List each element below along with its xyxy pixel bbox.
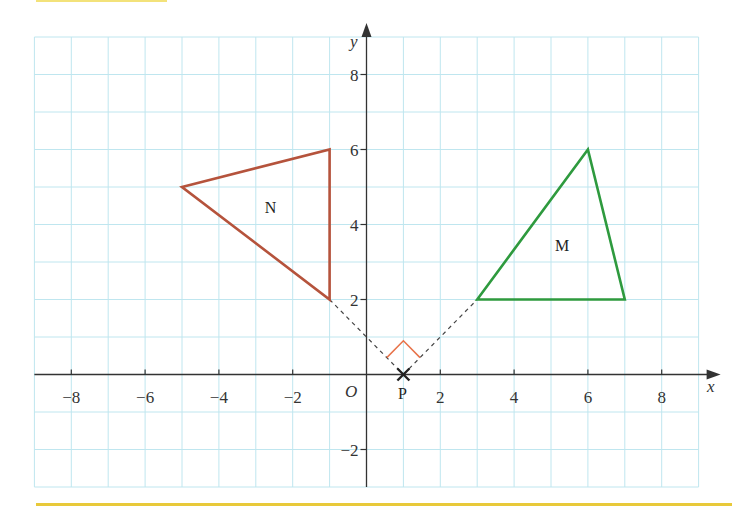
triangle-m-label: M [555, 237, 569, 254]
y-axis-arrow-icon [362, 23, 372, 37]
x-tick-label: −2 [284, 388, 302, 407]
x-tick-label: −6 [136, 388, 154, 407]
coordinate-grid-diagram: −8−6−4−224688642−2 x y O P N M [0, 0, 732, 507]
x-tick-label: 6 [584, 388, 593, 407]
x-tick-label: −4 [210, 388, 229, 407]
axes [34, 23, 720, 487]
y-tick-label: 8 [350, 66, 359, 85]
point-p-label: P [398, 385, 407, 402]
origin-label: O [345, 382, 357, 401]
y-axis-label: y [348, 32, 358, 51]
bottom-accent-bar [36, 503, 732, 506]
x-tick-label: 8 [657, 388, 666, 407]
triangle-n-label: N [265, 199, 277, 216]
y-tick-label: 6 [350, 141, 359, 160]
y-tick-label: 4 [350, 216, 359, 235]
y-tick-label: 2 [350, 291, 359, 310]
x-axis-label: x [706, 377, 715, 396]
x-tick-label: 2 [436, 388, 445, 407]
x-tick-label: −8 [62, 388, 80, 407]
x-tick-label: 4 [510, 388, 519, 407]
y-tick-label: −2 [340, 441, 358, 460]
